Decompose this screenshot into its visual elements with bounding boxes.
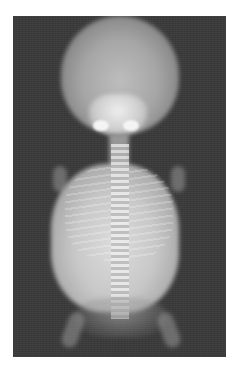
- right-shoulder: [171, 166, 185, 192]
- pelvis: [75, 298, 167, 338]
- radiograph-image: [13, 16, 226, 357]
- right-orbit: [123, 120, 139, 131]
- left-orbit: [93, 120, 109, 131]
- spine: [111, 144, 129, 319]
